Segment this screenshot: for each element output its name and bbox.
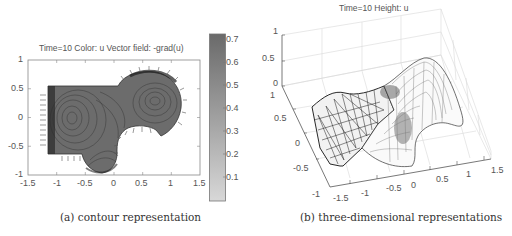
panel-b-ztick: 1 [273,26,278,36]
panel-b-ztick: 0.5 [262,53,275,63]
panel-b-xtick: 0 [411,180,416,190]
panel-b-ytick: 0.5 [274,113,287,123]
wireframe-surface [312,58,463,167]
panel-b-xtick: -1 [361,188,369,198]
panel-b-xtick: -1.5 [333,193,349,203]
panel-b-xtick: 0.5 [436,174,449,184]
panel-b-ytick: 1 [270,90,275,100]
panel-b-ytick: 0 [295,138,300,148]
panel-b-xtick: -0.5 [386,183,402,193]
panel-b-ztick: 0 [273,78,278,88]
panel-b-ytick: -1 [312,189,320,199]
panel-b-caption: (b) three-dimensional representations [300,211,502,223]
panel-b-xtick: 1 [466,169,471,179]
wireframe-plot-graphic [0,0,512,236]
panel-b-ytick: -0.5 [293,163,309,173]
panel-b-xtick: 1.5 [491,165,504,175]
